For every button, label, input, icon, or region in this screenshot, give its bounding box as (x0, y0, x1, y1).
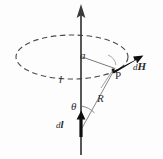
physics-diagram-figure: a l P R θ dH dl (0, 0, 163, 159)
dH-H-glyph: H (138, 60, 147, 72)
point-label-P: P (115, 70, 121, 81)
field-vector-label-dH: dH (133, 61, 146, 72)
radius-line (81, 57, 115, 69)
angle-label-theta: θ (71, 101, 76, 112)
loop-perspective-arc (108, 55, 116, 65)
distance-label-R: R (97, 93, 104, 104)
dl-l-glyph: l (61, 118, 64, 130)
current-element-label-dl: dl (56, 119, 64, 130)
radius-label-a: a (80, 50, 86, 61)
diagram-canvas (0, 0, 163, 159)
point-P-marker (112, 69, 115, 72)
axis-distance-label-l: l (59, 74, 62, 85)
point-leader-line (101, 70, 113, 88)
